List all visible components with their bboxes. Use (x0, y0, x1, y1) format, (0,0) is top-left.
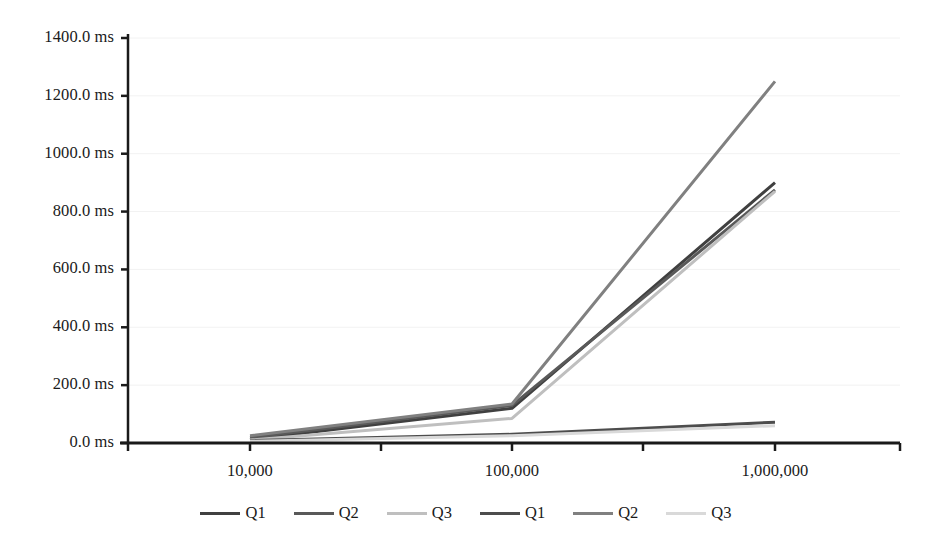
x-axis-label: 1,000,000 (695, 461, 855, 481)
line-chart: 0.0 ms200.0 ms400.0 ms600.0 ms800.0 ms10… (0, 0, 932, 551)
y-axis-label: 800.0 ms (0, 201, 114, 221)
legend-label: Q1 (525, 505, 545, 522)
x-axis-label: 10,000 (170, 461, 330, 481)
y-axis-label: 400.0 ms (0, 316, 114, 336)
gridlines (128, 38, 900, 385)
legend-color-swatch (387, 512, 427, 515)
legend-color-swatch (294, 512, 334, 515)
y-axis-label: 1200.0 ms (0, 85, 114, 105)
y-axis-label: 0.0 ms (0, 432, 114, 452)
legend-color-swatch (200, 512, 240, 515)
legend-item[interactable]: Q3 (666, 505, 731, 522)
plot-series-group (250, 81, 775, 441)
chart-legend: Q1Q2Q3Q1Q2Q3 (0, 500, 932, 526)
legend-item[interactable]: Q2 (294, 505, 359, 522)
legend-label: Q2 (618, 505, 638, 522)
legend-label: Q2 (339, 505, 359, 522)
legend-color-swatch (666, 512, 706, 515)
x-axis-label: 100,000 (432, 461, 592, 481)
legend-label: Q1 (245, 505, 265, 522)
legend-color-swatch (480, 512, 520, 515)
legend-color-swatch (573, 512, 613, 515)
y-axis-label: 200.0 ms (0, 374, 114, 394)
legend-item[interactable]: Q3 (387, 505, 452, 522)
axis-group (120, 34, 900, 451)
series-line-q2-1 (250, 190, 775, 438)
y-axis-label: 1400.0 ms (0, 27, 114, 47)
legend-item[interactable]: Q1 (480, 505, 545, 522)
legend-item[interactable]: Q1 (200, 505, 265, 522)
legend-item[interactable]: Q2 (573, 505, 638, 522)
legend-label: Q3 (432, 505, 452, 522)
legend-label: Q3 (711, 505, 731, 522)
y-axis-label: 1000.0 ms (0, 143, 114, 163)
y-axis-label: 600.0 ms (0, 258, 114, 278)
